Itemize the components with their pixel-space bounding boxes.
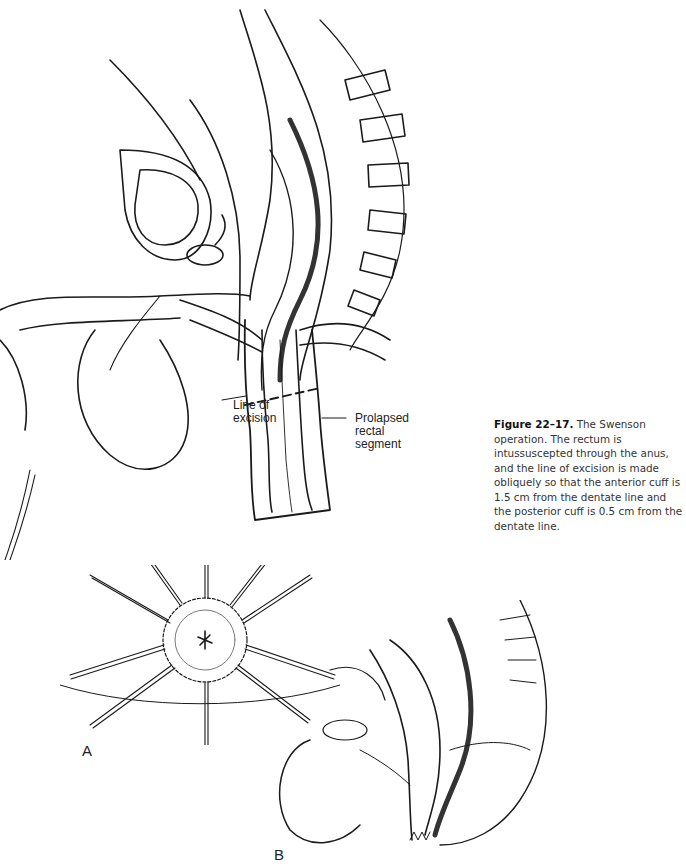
label-line-3: segment <box>355 438 425 451</box>
illustration-panel-b-sagittal <box>270 600 570 850</box>
post-resection-drawing <box>270 600 570 850</box>
figure-number: Figure 22–17. <box>494 418 573 430</box>
figure-caption-text: The Swenson operation. The rectum is int… <box>494 418 682 532</box>
figure-caption: Figure 22–17. The Swenson operation. The… <box>494 417 684 533</box>
label-line-of-excision: Line of excision <box>233 399 289 425</box>
sagittal-pelvis-drawing <box>0 0 480 560</box>
label-line-2: excision <box>233 412 289 425</box>
panel-label-a: A <box>82 742 92 759</box>
label-prolapsed-rectal-segment: Prolapsed rectal segment <box>355 412 425 451</box>
panel-label-b: B <box>274 846 284 863</box>
illustration-sagittal-pelvis <box>0 0 480 560</box>
